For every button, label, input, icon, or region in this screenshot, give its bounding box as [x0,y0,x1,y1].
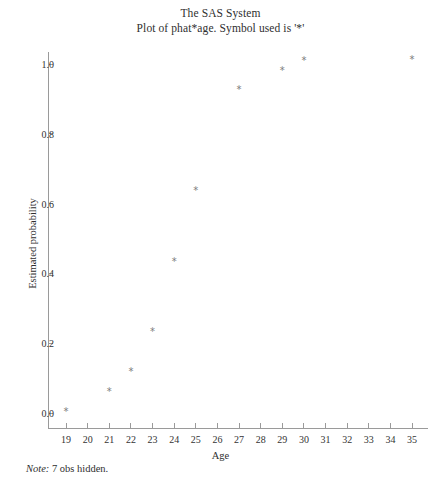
x-tick-label: 32 [342,434,352,445]
x-axis-title: Age [0,450,441,461]
x-tick-label: 22 [126,434,136,445]
data-point-marker: * [301,56,306,66]
x-tick-label: 33 [364,434,374,445]
plot-axes-canvas [0,0,441,491]
data-point-marker: * [410,55,415,65]
x-tick-label: 35 [407,434,417,445]
footnote-label: Note: [26,463,49,474]
x-tick-label: 27 [234,434,244,445]
x-tick-label: 24 [169,434,179,445]
y-tick-label: 0.8 [24,128,54,139]
y-tick-label: 0.6 [24,198,54,209]
x-tick-label: 34 [385,434,395,445]
y-tick-label: 0.0 [24,408,54,419]
footnote-text: 7 obs hidden. [52,463,108,474]
x-tick-label: 26 [212,434,222,445]
x-tick-label: 25 [191,434,201,445]
x-tick-label: 31 [321,434,331,445]
x-tick-label: 21 [104,434,114,445]
data-point-marker: * [237,85,242,95]
data-point-marker: * [64,407,69,417]
data-point-marker: * [128,367,133,377]
data-point-marker: * [150,327,155,337]
x-tick-label: 20 [83,434,93,445]
x-tick-label: 28 [256,434,266,445]
x-tick-label: 29 [277,434,287,445]
footnote: Note: 7 obs hidden. [26,463,108,474]
y-axis-title: Estimated probability [27,149,38,339]
x-tick-label: 30 [299,434,309,445]
data-point-marker: * [172,257,177,267]
data-point-marker: * [280,66,285,76]
x-tick-label: 19 [61,434,71,445]
scatter-plot: Estimated probability Age 19202122232425… [0,0,441,491]
y-tick-label: 0.4 [24,268,54,279]
y-tick-label: 0.2 [24,338,54,349]
data-point-marker: * [193,186,198,196]
y-tick-label: 1.0 [24,59,54,70]
x-tick-label: 23 [148,434,158,445]
data-point-marker: * [107,387,112,397]
